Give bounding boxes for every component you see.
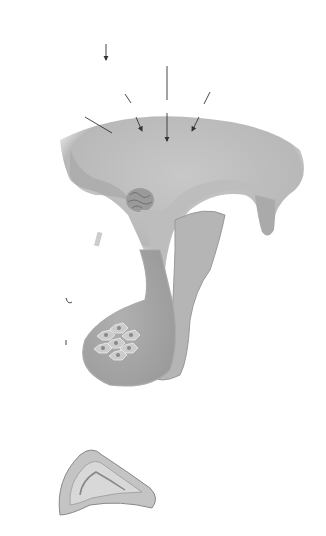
diagram-canvas xyxy=(0,0,326,536)
adrenal-gland xyxy=(59,450,155,515)
portal-vessels xyxy=(126,188,154,212)
